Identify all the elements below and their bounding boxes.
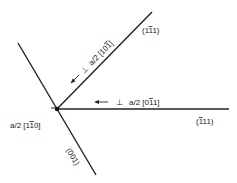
junction-node: [55, 107, 59, 111]
plane-label-1bar-1-1: (111): [196, 117, 214, 126]
plane-label-1-1bar-1: (111): [142, 26, 160, 35]
disl-symbol: ⊥: [79, 64, 90, 75]
disl-01bar1-label: ⊥a/2 [011]: [116, 98, 160, 107]
disl-11bar0-label: a/2 [110]: [10, 121, 41, 130]
disl-101bar-group: ⊥ a/2 [101]: [68, 39, 115, 87]
disl-101bar-label: ⊥ a/2 [101]: [79, 39, 115, 76]
arrow-left-icon: [94, 100, 99, 104]
plane-line-1-1bar-1: [57, 12, 152, 109]
dislocation-diagram: ⊥ a/2 [101] (111) ⊥a/2 [011] (111) a/2 […: [0, 0, 237, 183]
plane-label-001: (001): [64, 147, 81, 168]
